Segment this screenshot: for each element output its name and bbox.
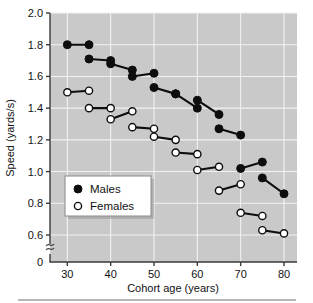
datapoint-females-8-0: [237, 209, 244, 216]
legend-marker-females-icon: [74, 202, 81, 209]
datapoint-females-9-1: [280, 230, 287, 237]
legend-label-females: Females: [90, 200, 134, 212]
xtick-label-70: 70: [235, 268, 247, 280]
datapoint-females-5-0: [172, 149, 179, 156]
datapoint-females-4-0: [150, 133, 157, 140]
datapoint-males-0-0: [63, 41, 71, 49]
ytick-label-1.2: 1.2: [28, 134, 43, 146]
xtick-label-60: 60: [191, 268, 203, 280]
datapoint-females-7-1: [237, 181, 244, 188]
datapoint-females-7-0: [215, 187, 222, 194]
datapoint-males-5-1: [193, 104, 201, 112]
xtick-label-30: 30: [61, 268, 73, 280]
datapoint-males-3-1: [150, 69, 158, 77]
datapoint-males-7-0: [215, 125, 223, 133]
datapoint-females-1-1: [107, 105, 114, 112]
datapoint-females-5-1: [194, 151, 201, 158]
y-axis-title: Speed (yards/s): [4, 99, 16, 177]
ytick-label-0.6: 0.6: [28, 229, 43, 241]
datapoint-females-3-0: [129, 124, 136, 131]
datapoint-females-2-1: [129, 108, 136, 115]
datapoint-females-8-1: [259, 212, 266, 219]
datapoint-females-9-0: [259, 227, 266, 234]
speed-vs-cohort-age-chart: 0.60.81.01.21.41.61.82.00 304050607080 M…: [0, 0, 313, 303]
legend-marker-males-icon: [74, 185, 82, 193]
datapoint-females-4-1: [172, 136, 179, 143]
chart-figure: 0.60.81.01.21.41.61.82.00 304050607080 M…: [0, 0, 313, 303]
datapoint-males-0-1: [85, 41, 93, 49]
y-axis-ticks: 0.60.81.01.21.41.61.82.00: [28, 7, 50, 268]
chart-legend[interactable]: Males Females: [65, 176, 154, 219]
datapoint-females-2-0: [107, 116, 114, 123]
datapoint-males-8-0: [237, 164, 245, 172]
x-axis-ticks: 304050607080: [61, 262, 290, 280]
ytick-label-2.0: 2.0: [28, 7, 43, 19]
ytick-label-0: 0: [37, 256, 43, 268]
datapoint-males-9-0: [258, 174, 266, 182]
datapoint-males-6-0: [193, 96, 201, 104]
datapoint-males-1-0: [85, 55, 93, 63]
datapoint-males-9-1: [280, 190, 288, 198]
datapoint-females-0-1: [85, 87, 92, 94]
datapoint-females-6-0: [194, 166, 201, 173]
xtick-label-50: 50: [148, 268, 160, 280]
x-axis-title: Cohort age (years): [127, 282, 219, 294]
datapoint-females-0-0: [64, 89, 71, 96]
ytick-label-1.8: 1.8: [28, 39, 43, 51]
ytick-label-0.8: 0.8: [28, 197, 43, 209]
datapoint-females-1-0: [85, 105, 92, 112]
datapoint-males-6-1: [215, 110, 223, 118]
datapoint-males-5-0: [172, 90, 180, 98]
datapoint-females-3-1: [150, 125, 157, 132]
datapoint-males-8-1: [258, 158, 266, 166]
ytick-label-1.4: 1.4: [28, 102, 43, 114]
xtick-label-40: 40: [105, 268, 117, 280]
datapoint-females-6-1: [215, 163, 222, 170]
datapoint-males-7-1: [237, 131, 245, 139]
ytick-label-1.6: 1.6: [28, 70, 43, 82]
datapoint-males-3-0: [128, 72, 136, 80]
ytick-label-1.0: 1.0: [28, 166, 43, 178]
datapoint-males-4-0: [150, 84, 158, 92]
datapoint-males-2-0: [107, 60, 115, 68]
legend-label-males: Males: [90, 183, 121, 195]
xtick-label-80: 80: [278, 268, 290, 280]
